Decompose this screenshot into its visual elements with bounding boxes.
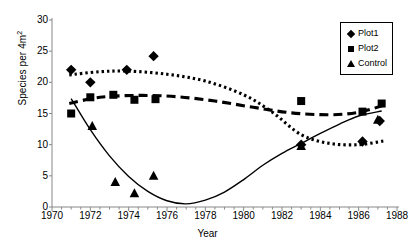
- data-point-plot2: [359, 108, 367, 116]
- x-tick-label: 1974: [109, 211, 149, 221]
- legend-item-control: Control: [345, 56, 387, 71]
- data-point-plot2: [297, 97, 305, 105]
- square-marker-icon: [345, 46, 356, 52]
- x-tick-label: 1986: [339, 211, 379, 221]
- legend-label: Plot1: [358, 29, 379, 38]
- data-point-plot1: [148, 51, 158, 61]
- data-point-plot2: [130, 96, 138, 104]
- x-axis-label: Year: [0, 228, 415, 239]
- chart-legend: Plot1 Plot2 Control: [340, 22, 393, 75]
- x-tick-label: 1988: [377, 211, 415, 221]
- x-tick-label: 1976: [147, 211, 187, 221]
- legend-label: Plot2: [358, 44, 379, 53]
- data-point-control: [110, 177, 120, 186]
- data-point-control: [149, 171, 159, 180]
- x-tick-label: 1982: [262, 211, 302, 221]
- triangle-marker-icon: [345, 60, 356, 67]
- data-point-plot1: [85, 77, 95, 87]
- trend-line-plot1: [69, 71, 383, 145]
- x-tick-label: 1980: [224, 211, 264, 221]
- x-tick-label: 1984: [300, 211, 340, 221]
- x-tick-label: 1970: [32, 211, 72, 221]
- x-tick-label: 1978: [185, 211, 225, 221]
- data-point-control: [130, 188, 140, 197]
- data-point-plot2: [378, 100, 386, 108]
- data-point-plot2: [67, 110, 75, 118]
- x-tick-label: 1972: [70, 211, 110, 221]
- data-point-control: [87, 121, 97, 130]
- legend-item-plot1: Plot1: [345, 26, 387, 41]
- data-point-plot1: [122, 65, 132, 75]
- legend-label: Control: [358, 59, 387, 68]
- legend-item-plot2: Plot2: [345, 41, 387, 56]
- data-point-plot2: [86, 93, 94, 101]
- data-point-plot2: [152, 95, 160, 103]
- data-point-plot2: [109, 91, 117, 99]
- diamond-marker-icon: [345, 31, 356, 37]
- chart-container: Species per 4m2 051015202530 Year Plot1 …: [0, 0, 415, 249]
